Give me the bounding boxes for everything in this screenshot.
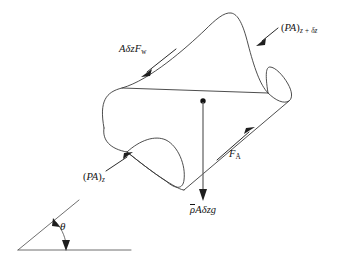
acceleration-force-label: FA — [229, 149, 241, 160]
weight-force-label: ρAδzg — [190, 205, 216, 216]
pressure-lower-leader — [106, 152, 133, 171]
angle-hypotenuse-line — [18, 200, 79, 250]
tube-upper-edge — [122, 88, 268, 93]
wall-friction-subscript: w — [141, 48, 146, 56]
wall-friction-arrowhead — [141, 69, 152, 77]
theta-symbol: θ — [60, 220, 66, 232]
tube-left-curve — [104, 128, 127, 152]
pressure-force-lower-label: (PA)z — [83, 172, 105, 183]
tube-bottom-profile — [127, 152, 184, 190]
control-volume-diagram — [0, 0, 341, 262]
wall-friction-force-label: AδzFw — [119, 44, 146, 55]
tube-end-cap-upper — [266, 67, 291, 102]
weight-rest: Aδzg — [195, 204, 216, 215]
pressure-upper-arrowhead — [256, 38, 266, 46]
tube-lower-right-edge — [184, 101, 289, 190]
pressure-lower-subscript: z — [102, 176, 105, 184]
acceleration-arrowhead — [244, 127, 255, 134]
weight-arrowhead — [199, 189, 207, 201]
pressure-upper-leader — [256, 28, 278, 46]
weight-force-vector — [199, 98, 207, 201]
rho-bar-symbol: ρ — [190, 205, 195, 216]
acceleration-subscript: A — [236, 153, 241, 161]
tube-top-profile — [102, 13, 268, 128]
acceleration-base: F — [229, 148, 236, 159]
pressure-force-upper-label: (PA)z + δz — [281, 23, 317, 34]
inclination-angle-label: θ — [60, 221, 66, 232]
pressure-lower-symbol: PA — [87, 171, 99, 182]
wall-friction-base: AδzF — [119, 43, 141, 54]
pressure-upper-subscript: z + δz — [300, 27, 317, 35]
angle-arc-arrowhead-lower — [62, 240, 70, 251]
pressure-upper-leader-shaft — [262, 28, 278, 41]
inclination-angle-diagram — [18, 200, 131, 251]
pressure-upper-symbol: PA — [285, 22, 297, 33]
pressure-lower-leader-shaft — [106, 157, 127, 171]
wall-friction-arrow-shaft — [147, 49, 176, 72]
figure-root: AδzFw (PA)z + δz (PA)z FA ρAδzg θ — [0, 0, 341, 262]
tube-end-cap-lower — [127, 138, 184, 187]
